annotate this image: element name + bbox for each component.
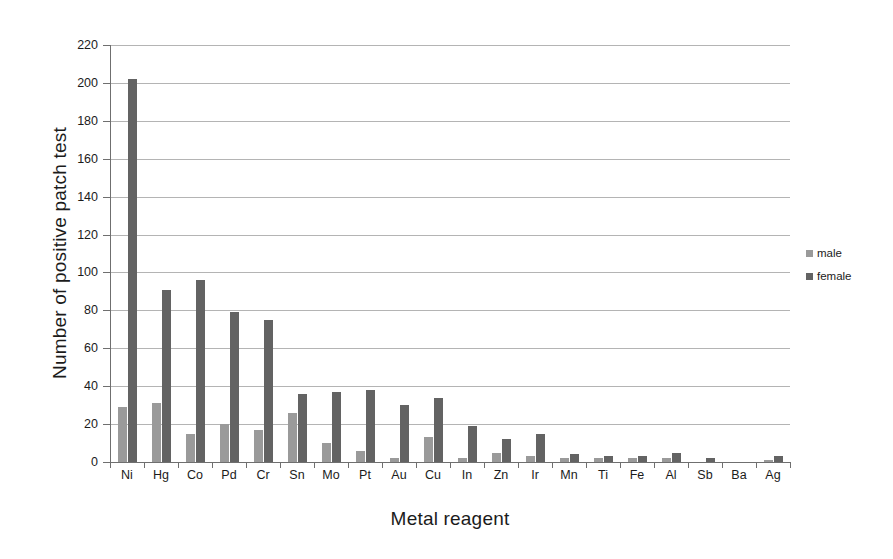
y-axis-tick-mark <box>103 310 110 311</box>
bar-female-pd <box>230 312 239 462</box>
y-axis-tick-mark <box>103 83 110 84</box>
bar-male-co <box>186 434 195 462</box>
bar-female-au <box>400 405 409 462</box>
bar-group <box>280 45 314 462</box>
bar-female-ag <box>774 456 783 462</box>
bar-group <box>518 45 552 462</box>
legend-label: female <box>817 270 852 282</box>
bar-male-ni <box>118 407 127 462</box>
bar-group <box>722 45 756 462</box>
y-axis-tick-mark <box>103 235 110 236</box>
y-axis-tick-label: 120 <box>38 228 98 242</box>
bar-male-al <box>662 458 671 462</box>
bar-female-al <box>672 453 681 462</box>
bar-male-ti <box>594 458 603 462</box>
legend-swatch-icon <box>806 273 813 280</box>
bar-group <box>348 45 382 462</box>
bar-group <box>246 45 280 462</box>
bar-group <box>178 45 212 462</box>
bar-female-zn <box>502 439 511 462</box>
y-axis-tick-label: 80 <box>38 303 98 317</box>
bar-male-sn <box>288 413 297 462</box>
bar-chart: Number of positive patch test Metal reag… <box>0 0 893 559</box>
bar-female-fe <box>638 456 647 462</box>
bar-male-cu <box>424 437 433 462</box>
y-axis-tick-mark <box>103 462 110 463</box>
bars-layer <box>110 45 790 462</box>
bar-male-ir <box>526 456 535 462</box>
y-axis-tick-label: 140 <box>38 190 98 204</box>
bar-female-in <box>468 426 477 462</box>
bar-group <box>620 45 654 462</box>
legend-swatch-icon <box>806 250 813 257</box>
bar-group <box>212 45 246 462</box>
bar-group <box>654 45 688 462</box>
bar-female-sb <box>706 458 715 462</box>
bar-group <box>382 45 416 462</box>
chart-legend: malefemale <box>806 247 886 293</box>
y-axis-tick-label: 100 <box>38 265 98 279</box>
bar-female-ir <box>536 434 545 462</box>
y-axis-tick-label: 40 <box>38 379 98 393</box>
bar-female-cr <box>264 320 273 462</box>
y-axis-tick-label: 60 <box>38 341 98 355</box>
bar-male-in <box>458 458 467 462</box>
bar-male-zn <box>492 453 501 462</box>
y-axis-tick-mark <box>103 159 110 160</box>
y-axis-tick-mark <box>103 121 110 122</box>
y-axis-tick-mark <box>103 45 110 46</box>
bar-group <box>688 45 722 462</box>
y-axis-tick-label: 0 <box>38 455 98 469</box>
bar-group <box>110 45 144 462</box>
legend-item-female: female <box>806 270 886 282</box>
bar-female-mn <box>570 454 579 462</box>
bar-female-co <box>196 280 205 462</box>
y-axis-tick-mark <box>103 197 110 198</box>
bar-female-mo <box>332 392 341 462</box>
bar-male-au <box>390 458 399 462</box>
bar-group <box>314 45 348 462</box>
y-axis-tick-label: 160 <box>38 152 98 166</box>
y-axis-tick-mark <box>103 348 110 349</box>
y-axis-tick-label: 220 <box>38 38 98 52</box>
bar-female-ni <box>128 79 137 462</box>
bar-female-hg <box>162 290 171 462</box>
bar-female-pt <box>366 390 375 462</box>
bar-male-pd <box>220 424 229 462</box>
bar-group <box>756 45 790 462</box>
x-axis-title: Metal reagent <box>110 508 790 530</box>
bar-male-pt <box>356 451 365 462</box>
y-axis-tick-mark <box>103 424 110 425</box>
bar-group <box>552 45 586 462</box>
bar-male-hg <box>152 403 161 462</box>
x-axis-tick-label: Ag <box>750 468 796 482</box>
bar-group <box>484 45 518 462</box>
bar-male-mo <box>322 443 331 462</box>
bar-female-cu <box>434 398 443 462</box>
bar-group <box>144 45 178 462</box>
bar-male-mn <box>560 458 569 462</box>
bar-group <box>450 45 484 462</box>
bar-female-ti <box>604 456 613 462</box>
bar-male-fe <box>628 458 637 462</box>
y-axis-tick-mark <box>103 386 110 387</box>
y-axis-tick-label: 20 <box>38 417 98 431</box>
bar-group <box>416 45 450 462</box>
bar-group <box>586 45 620 462</box>
plot-area <box>110 45 790 462</box>
legend-item-male: male <box>806 247 886 259</box>
y-axis-tick-label: 180 <box>38 114 98 128</box>
bar-male-cr <box>254 430 263 462</box>
bar-male-ag <box>764 460 773 462</box>
y-axis-tick-label: 200 <box>38 76 98 90</box>
y-axis-tick-mark <box>103 272 110 273</box>
bar-female-sn <box>298 394 307 462</box>
legend-label: male <box>817 247 842 259</box>
y-axis-title: Number of positive patch test <box>49 43 71 463</box>
